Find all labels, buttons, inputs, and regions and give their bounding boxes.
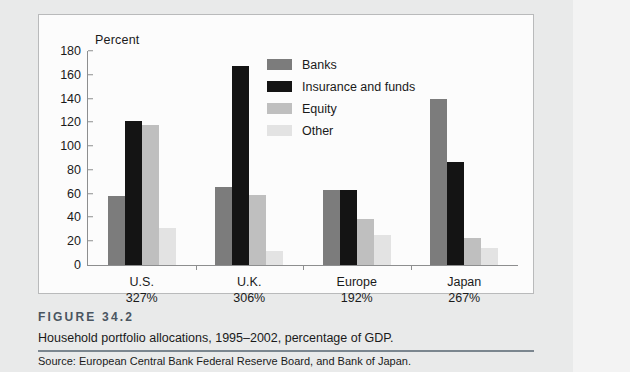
x-axis-group-label: U.K.306% bbox=[196, 274, 304, 306]
legend-swatch bbox=[267, 81, 292, 92]
bar-group: Japan267% bbox=[411, 51, 519, 265]
figure-number: FIGURE 34.2 bbox=[38, 310, 134, 324]
x-axis-group-separator bbox=[303, 265, 304, 270]
x-axis-category-value: 327% bbox=[88, 290, 196, 306]
bar bbox=[340, 190, 357, 265]
x-axis-group-separator bbox=[411, 265, 412, 270]
page-margin-panel bbox=[573, 0, 630, 372]
bar bbox=[125, 121, 142, 265]
legend-item: Equity bbox=[267, 99, 415, 118]
bar bbox=[464, 238, 481, 265]
x-axis-group-label: U.S.327% bbox=[88, 274, 196, 306]
y-tick-label: 60 bbox=[67, 187, 88, 201]
legend-label: Insurance and funds bbox=[302, 80, 415, 94]
y-tick-label: 120 bbox=[60, 115, 88, 129]
y-tick-label: 20 bbox=[67, 234, 88, 248]
x-axis-category-value: 267% bbox=[411, 290, 519, 306]
bar-group: U.S.327% bbox=[88, 51, 196, 265]
y-tick-label: 140 bbox=[60, 92, 88, 106]
bar bbox=[357, 219, 374, 265]
figure-source: Source: European Central Bank Federal Re… bbox=[38, 355, 411, 367]
x-axis-category-name: Europe bbox=[303, 274, 411, 290]
bar bbox=[142, 125, 159, 265]
x-axis-category-name: U.K. bbox=[196, 274, 304, 290]
x-axis-group-separator bbox=[196, 265, 197, 270]
y-axis-title: Percent bbox=[95, 33, 139, 47]
bar bbox=[108, 196, 125, 265]
x-axis-group-label: Europe192% bbox=[303, 274, 411, 306]
bar-group-bars bbox=[88, 51, 196, 265]
legend-item: Insurance and funds bbox=[267, 77, 415, 96]
bar bbox=[232, 66, 249, 265]
x-axis-category-name: Japan bbox=[411, 274, 519, 290]
legend-swatch bbox=[267, 125, 292, 136]
y-tick-label: 160 bbox=[60, 68, 88, 82]
chart-card: Percent 020406080100120140160180 U.S.327… bbox=[38, 14, 534, 294]
x-axis-category-name: U.S. bbox=[88, 274, 196, 290]
y-tick-label: 80 bbox=[67, 163, 88, 177]
x-axis-category-value: 306% bbox=[196, 290, 304, 306]
bar bbox=[249, 195, 266, 265]
legend-label: Banks bbox=[302, 58, 337, 72]
chart-legend: BanksInsurance and fundsEquityOther bbox=[267, 55, 415, 143]
legend-swatch bbox=[267, 59, 292, 70]
bar bbox=[323, 190, 340, 265]
figure-34-2: Percent 020406080100120140160180 U.S.327… bbox=[0, 0, 630, 372]
x-axis-category-value: 192% bbox=[303, 290, 411, 306]
y-tick-label: 40 bbox=[67, 210, 88, 224]
bar bbox=[447, 162, 464, 265]
bar bbox=[266, 251, 283, 265]
y-tick-label: 0 bbox=[74, 258, 88, 272]
legend-swatch bbox=[267, 103, 292, 114]
legend-item: Banks bbox=[267, 55, 415, 74]
y-tick-label: 100 bbox=[60, 139, 88, 153]
bar bbox=[430, 99, 447, 265]
figure-divider bbox=[38, 350, 534, 352]
bar-group-bars bbox=[411, 51, 519, 265]
bar bbox=[481, 248, 498, 265]
y-tick-label: 180 bbox=[60, 44, 88, 58]
legend-label: Equity bbox=[302, 102, 337, 116]
legend-label: Other bbox=[302, 124, 333, 138]
bar bbox=[215, 187, 232, 265]
figure-caption: Household portfolio allocations, 1995–20… bbox=[38, 331, 394, 345]
x-axis-group-label: Japan267% bbox=[411, 274, 519, 306]
bar bbox=[374, 235, 391, 265]
bar bbox=[159, 228, 176, 265]
legend-item: Other bbox=[267, 121, 415, 140]
